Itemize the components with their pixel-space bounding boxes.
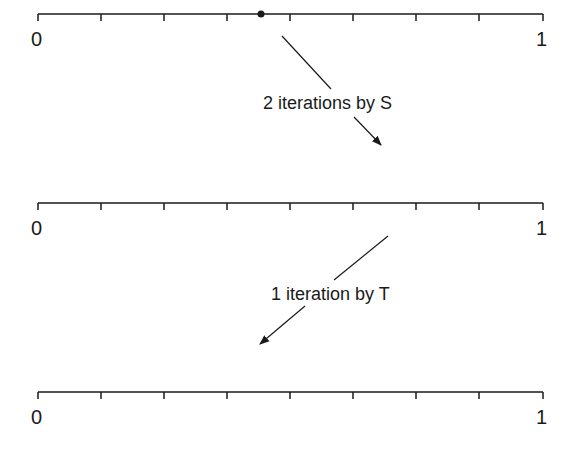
number-line-middle [38, 203, 543, 210]
arrow-label-s: 2 iterations by S [263, 94, 392, 112]
arrow-down-right-icon [282, 36, 381, 145]
number-line-top [38, 14, 543, 21]
diagram-canvas [0, 0, 578, 453]
middle-line-end-label: 1 [536, 218, 547, 238]
top-line-start-label: 0 [31, 29, 42, 49]
top-line-end-label: 1 [536, 29, 547, 49]
bottom-line-end-label: 1 [536, 407, 547, 427]
number-line-bottom [38, 392, 543, 399]
middle-line-start-label: 0 [31, 218, 42, 238]
arrow-label-t: 1 iteration by T [271, 285, 390, 303]
marked-point [258, 11, 265, 18]
bottom-line-start-label: 0 [31, 407, 42, 427]
